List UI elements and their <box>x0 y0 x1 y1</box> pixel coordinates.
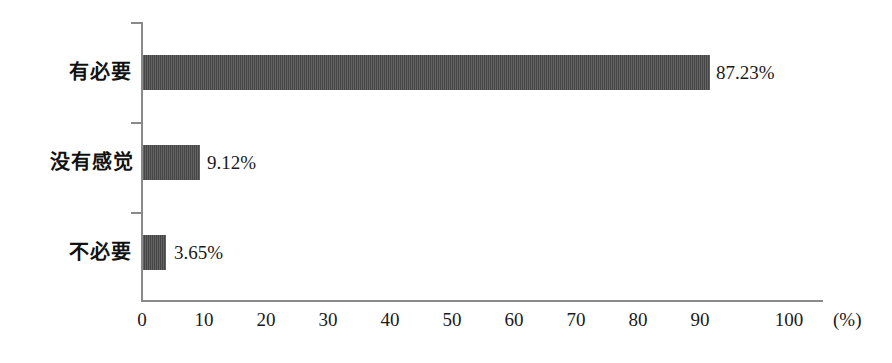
category-label-1: 没有感觉 <box>50 152 132 172</box>
bar-value-label-0: 87.23% <box>716 63 775 82</box>
category-label-2: 不必要 <box>60 242 132 262</box>
y-axis-tick <box>131 122 141 124</box>
x-axis-tick-label: 10 <box>195 310 214 329</box>
x-axis-tick-label: 30 <box>319 310 338 329</box>
x-axis-unit-label: (%) <box>833 310 861 329</box>
x-axis-tick-label: 100 <box>775 310 804 329</box>
bar-chart: 有必要 87.23% 没有感觉 9.12% 不必要 3.65% 0 10 20 … <box>0 0 892 363</box>
bar-0 <box>143 55 710 90</box>
bar-1 <box>143 145 200 180</box>
x-axis-line <box>141 300 823 302</box>
bar-2 <box>143 235 166 270</box>
x-axis-tick-label: 80 <box>629 310 648 329</box>
x-axis-tick-label: 60 <box>505 310 524 329</box>
bar-value-label-2: 3.65% <box>174 243 223 262</box>
x-axis-tick-label: 50 <box>443 310 462 329</box>
x-axis-tick-label: 90 <box>691 310 710 329</box>
x-axis-tick-label: 0 <box>137 310 147 329</box>
bar-value-label-1: 9.12% <box>207 153 256 172</box>
y-axis-tick <box>131 22 141 24</box>
x-axis-tick-label: 70 <box>567 310 586 329</box>
y-axis-tick <box>131 212 141 214</box>
x-axis-tick-label: 40 <box>381 310 400 329</box>
x-axis-tick-label: 20 <box>257 310 276 329</box>
category-label-0: 有必要 <box>60 62 132 82</box>
